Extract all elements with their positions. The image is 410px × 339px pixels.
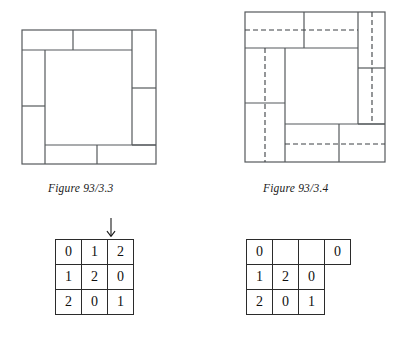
grid-cell-absent	[324, 264, 351, 290]
figure-page: Figure 93/3.3	[0, 0, 410, 339]
figure-93-3-4-diagram	[241, 8, 391, 168]
grid-cell[interactable]: 2	[55, 289, 82, 315]
table-row: 1 2 0	[56, 265, 134, 290]
figure-93-3-3-diagram	[18, 26, 160, 168]
grid-cell-absent	[324, 289, 351, 315]
grid-cell[interactable]: 0	[272, 289, 299, 315]
grid-cell[interactable]: 0	[298, 264, 325, 290]
pinwheel-square-dashed	[241, 8, 391, 168]
grid-cell[interactable]: 0	[246, 239, 273, 265]
latin-square-grid-right: 0 0 1 2 0 2 0 1	[247, 240, 351, 315]
grid-cell[interactable]: 2	[272, 264, 299, 290]
latin-square-grid-left: 0 1 2 1 2 0 2 0 1	[56, 240, 134, 315]
grid-cell[interactable]: 0	[324, 239, 351, 265]
outer-square-border	[245, 12, 385, 162]
table-row: 2 0 1	[56, 290, 134, 315]
down-arrow-glyph	[104, 218, 118, 238]
figure-caption-right: Figure 93/3.4	[263, 182, 328, 194]
grid-cell[interactable]: 2	[81, 264, 108, 290]
grid-cell-empty[interactable]	[272, 239, 299, 265]
grid-cell[interactable]: 0	[81, 289, 108, 315]
grid-cell[interactable]: 2	[107, 239, 134, 265]
figure-caption-left: Figure 93/3.3	[48, 182, 113, 194]
grid-cell[interactable]: 1	[81, 239, 108, 265]
grid-cell[interactable]: 2	[246, 289, 273, 315]
down-arrow-icon	[104, 218, 118, 238]
grid-cell[interactable]: 1	[107, 289, 134, 315]
grid-cell[interactable]: 1	[55, 264, 82, 290]
pinwheel-square-solid	[18, 26, 160, 168]
grid-cell[interactable]: 1	[298, 289, 325, 315]
table-row: 2 0 1	[247, 290, 351, 315]
grid-cell-empty[interactable]	[298, 239, 325, 265]
grid-cell[interactable]: 0	[107, 264, 134, 290]
grid-cell[interactable]: 1	[246, 264, 273, 290]
table-row: 0 0	[247, 240, 351, 265]
table-row: 0 1 2	[56, 240, 134, 265]
table-row: 1 2 0	[247, 265, 351, 290]
grid-cell[interactable]: 0	[55, 239, 82, 265]
